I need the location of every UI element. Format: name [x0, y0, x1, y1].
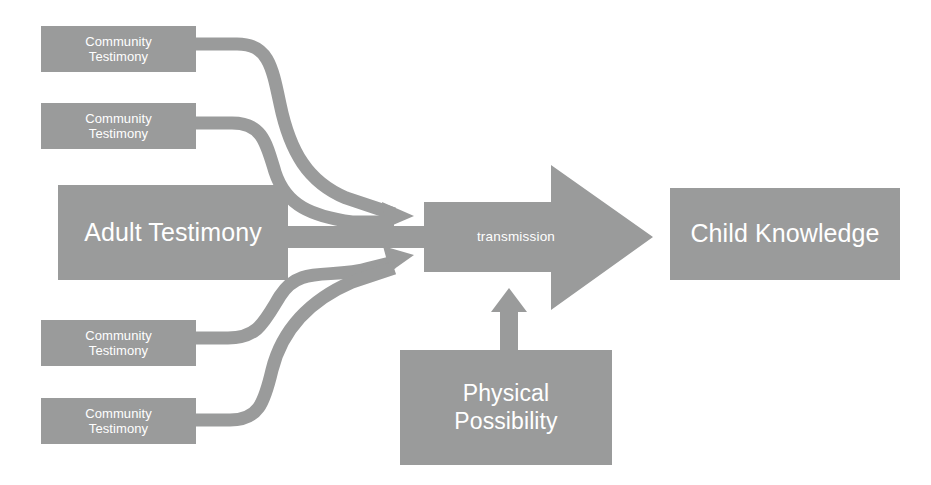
- transmission-arrow-label: transmission: [464, 229, 568, 244]
- node-community-testimony-2: Community Testimony: [41, 103, 196, 149]
- diagram-canvas: Community Testimony Community Testimony …: [0, 0, 931, 485]
- connector-physical-possibility-to-transmission: [491, 288, 527, 352]
- node-physical-possibility: Physical Possibility: [400, 350, 612, 465]
- node-community-testimony-1: Community Testimony: [41, 26, 196, 72]
- node-child-knowledge: Child Knowledge: [670, 188, 900, 280]
- node-community-testimony-4: Community Testimony: [41, 398, 196, 444]
- node-community-testimony-3: Community Testimony: [41, 320, 196, 366]
- connector-adult-testimony-to-transmission: [288, 226, 428, 248]
- node-adult-testimony: Adult Testimony: [58, 185, 288, 280]
